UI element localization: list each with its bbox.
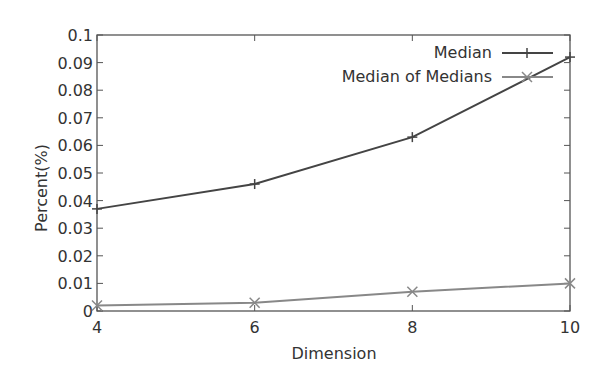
- series-line: [97, 283, 570, 305]
- y-tick-label: 0.04: [57, 192, 93, 211]
- y-tick-label: 0.01: [57, 274, 93, 293]
- data-series: [92, 52, 575, 310]
- y-tick-label: 0.1: [68, 26, 93, 45]
- y-tick-label: 0.05: [57, 164, 93, 183]
- legend-label: Median: [434, 43, 492, 62]
- line-chart: 00.010.020.030.040.050.060.070.080.090.1…: [0, 0, 612, 377]
- series-median-of-medians: [92, 278, 575, 310]
- x-axis-label: Dimension: [291, 344, 376, 363]
- y-tick-label: 0.06: [57, 136, 93, 155]
- x-tick-label: 6: [250, 318, 260, 337]
- legend-item: Median: [434, 43, 553, 62]
- y-tick-label: 0.02: [57, 247, 93, 266]
- y-tick-label: 0.09: [57, 54, 93, 73]
- x-tick-label: 4: [92, 318, 102, 337]
- x-tick-label: 8: [407, 318, 417, 337]
- y-axis-label: Percent(%): [32, 144, 51, 232]
- y-axis: 00.010.020.030.040.050.060.070.080.090.1: [57, 26, 570, 321]
- series-line: [97, 57, 570, 209]
- legend: MedianMedian of Medians: [342, 43, 553, 86]
- legend-item: Median of Medians: [342, 67, 553, 86]
- y-tick-label: 0.07: [57, 109, 93, 128]
- plot-frame: [97, 35, 570, 311]
- x-tick-label: 10: [560, 318, 580, 337]
- x-axis: 46810: [92, 35, 580, 337]
- plot-border: [97, 35, 570, 311]
- y-tick-label: 0.03: [57, 219, 93, 238]
- legend-label: Median of Medians: [342, 67, 492, 86]
- y-tick-label: 0.08: [57, 81, 93, 100]
